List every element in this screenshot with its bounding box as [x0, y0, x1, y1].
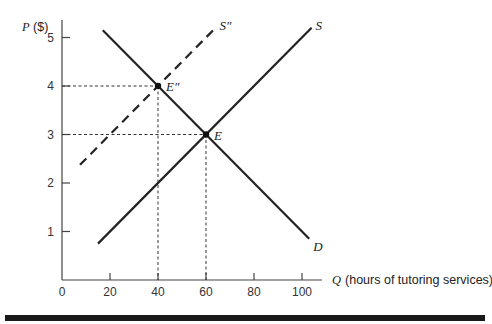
bottom-rule	[5, 315, 485, 321]
equilibrium-point	[203, 131, 209, 137]
curves: DSS″	[80, 18, 323, 254]
curve-label: S	[316, 18, 323, 33]
y-ticks: 12345	[47, 31, 70, 239]
x-tick-label: 80	[247, 285, 261, 299]
x-tick-label: 0	[59, 285, 66, 299]
x-axis-title: Q(hours of tutoring services)	[332, 273, 492, 287]
y-tick-label: 1	[47, 225, 54, 239]
y-axis-unit: ($)	[30, 20, 49, 34]
supply-demand-chart: 12345 020406080100 P ($) Q(hours of tuto…	[0, 0, 492, 324]
x-tick-label: 100	[292, 285, 312, 299]
x-tick-label: 60	[199, 285, 213, 299]
point-label: E″	[165, 79, 180, 94]
equilibrium-guides	[62, 86, 206, 280]
curve-label: S″	[220, 18, 233, 33]
x-ticks: 020406080100	[59, 273, 313, 299]
y-tick-label: 4	[47, 79, 54, 93]
x-tick-label: 20	[103, 285, 117, 299]
curve-label: D	[312, 239, 323, 254]
y-tick-label: 2	[47, 176, 54, 190]
point-label: E	[213, 128, 222, 143]
x-tick-label: 40	[151, 285, 165, 299]
equilibrium-point	[155, 83, 161, 89]
equilibrium-points: EE″	[155, 79, 222, 143]
y-tick-label: 3	[47, 128, 54, 142]
y-axis-var: P	[21, 20, 30, 34]
y-axis-title: P ($)	[21, 20, 48, 34]
